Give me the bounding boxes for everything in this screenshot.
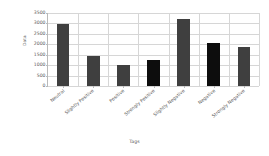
x-tick-mark: [123, 86, 124, 88]
x-tick-mark: [93, 86, 94, 88]
y-tick-label: 1000: [34, 63, 48, 68]
x-tick-label: Slightly Positive: [65, 89, 96, 116]
x-tick-mark: [154, 86, 155, 88]
x-gridline: [138, 13, 139, 86]
x-gridline: [229, 13, 230, 86]
bar-chart-figure: Data 0500100015002000250030003500Neutral…: [0, 0, 269, 156]
x-axis-title: Tags: [0, 139, 269, 144]
x-tick-label: Neutral: [50, 89, 66, 103]
x-tick-label: Strongly Negative: [212, 89, 247, 119]
plot-area: 0500100015002000250030003500NeutralSligh…: [47, 13, 259, 87]
y-tick-label: 2500: [34, 32, 48, 37]
x-tick-label: Slightly Negative: [153, 89, 186, 118]
y-axis-title: Data: [22, 19, 27, 63]
x-tick-mark: [214, 86, 215, 88]
x-tick-mark: [63, 86, 64, 88]
x-tick-mark: [244, 86, 245, 88]
bar: [57, 24, 70, 86]
x-gridline: [78, 13, 79, 86]
x-gridline: [169, 13, 170, 86]
x-gridline: [259, 13, 260, 86]
bar: [207, 43, 220, 86]
y-tick-label: 500: [37, 73, 48, 78]
y-tick-label: 2000: [34, 42, 48, 47]
bar: [238, 47, 251, 86]
y-tick-label: 0: [43, 84, 48, 89]
bar: [117, 65, 130, 86]
x-gridline: [199, 13, 200, 86]
x-tick-mark: [184, 86, 185, 88]
y-tick-label: 3500: [34, 11, 48, 16]
y-gridline: [48, 34, 259, 35]
y-gridline: [48, 13, 259, 14]
y-gridline: [48, 23, 259, 24]
y-tick-label: 1500: [34, 52, 48, 57]
x-tick-label: Positive: [109, 89, 126, 104]
y-gridline: [48, 44, 259, 45]
x-gridline: [108, 13, 109, 86]
bar: [87, 56, 100, 86]
bar: [177, 19, 190, 86]
bar: [147, 60, 160, 86]
y-gridline: [48, 55, 259, 56]
x-tick-label: Negative: [197, 89, 216, 106]
x-tick-label: Strongly Positive: [124, 89, 156, 117]
y-tick-label: 3000: [34, 21, 48, 26]
